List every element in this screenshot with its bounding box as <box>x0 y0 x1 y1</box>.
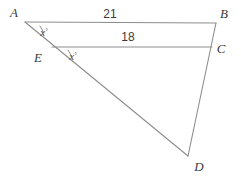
segment-ab <box>25 22 216 23</box>
degree-icon-e: ° <box>74 52 77 58</box>
vertex-label-c: C <box>217 41 226 56</box>
vertex-label-e: E <box>33 50 42 65</box>
vertex-label-b: B <box>220 6 228 21</box>
angle-label-e: x° <box>68 50 77 62</box>
length-label-ab: 21 <box>103 7 117 21</box>
vertex-label-a: A <box>9 5 18 20</box>
geometry-figure: A B C D E 21 18 x° x° <box>0 0 241 178</box>
segment-bd <box>188 23 216 156</box>
angle-label-a: x° <box>39 26 48 38</box>
length-label-ec: 18 <box>121 30 135 44</box>
vertex-label-d: D <box>193 159 204 174</box>
segment-ad <box>25 22 188 156</box>
degree-icon-a: ° <box>45 28 48 34</box>
